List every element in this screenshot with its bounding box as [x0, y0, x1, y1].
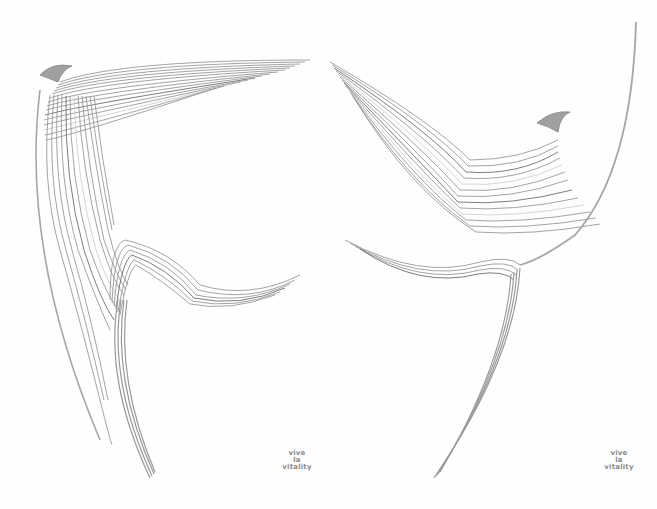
caption-line-3: vitality [280, 464, 314, 471]
bird-line-art [0, 0, 657, 509]
left-bird-lower-wing [110, 240, 300, 315]
left-bird [36, 60, 310, 478]
left-bird-leg [115, 300, 155, 478]
caption-line-3: vitality [601, 464, 637, 471]
left-bird-body-strands [47, 95, 128, 445]
artwork-canvas: vive la vitality vive la vitality [0, 0, 657, 509]
caption-right: vive la vitality [601, 450, 637, 471]
right-bird-wing-strands [330, 62, 600, 233]
right-bird-head [537, 112, 570, 132]
right-bird-lower-wing [345, 240, 520, 280]
right-bird-leg [434, 268, 520, 478]
caption-left: vive la vitality [280, 450, 314, 471]
left-bird-wing-strands [44, 60, 310, 140]
right-bird [330, 22, 636, 478]
left-bird-outer-arc [36, 90, 100, 440]
right-bird-outer-arc [520, 22, 636, 265]
